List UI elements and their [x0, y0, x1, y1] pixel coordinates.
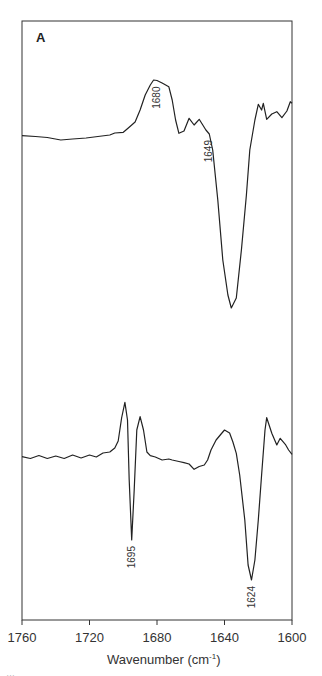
caption-fragment: … — [6, 668, 15, 676]
peak-label-1695: 1695 — [126, 546, 137, 569]
peak-label-1649: 1649 — [203, 140, 214, 163]
x-axis-label: Wavenumber (cm-1) — [107, 652, 221, 667]
x-tick-label: 1600 — [278, 630, 307, 645]
lower-spectrum-line — [22, 402, 292, 580]
plot-frame — [22, 21, 292, 620]
panel-label: A — [36, 30, 46, 45]
x-tick-label: 1720 — [75, 630, 104, 645]
peak-annotations: 1680164916951624 — [126, 86, 257, 608]
x-tick-label: 1680 — [143, 630, 172, 645]
x-axis-label-main: Wavenumber (cm — [107, 652, 209, 667]
x-axis-label-close: ) — [216, 652, 220, 667]
x-axis-tick-labels: 17601720168016401600 — [8, 630, 307, 645]
peak-label-1680: 1680 — [151, 86, 162, 109]
ir-spectrum-chart: A 17601720168016401600 Wavenumber (cm-1)… — [0, 0, 322, 676]
x-axis-ticks — [22, 620, 292, 625]
x-tick-label: 1760 — [8, 630, 37, 645]
peak-label-1624: 1624 — [246, 586, 257, 609]
upper-spectrum-line — [22, 80, 292, 308]
x-tick-label: 1640 — [210, 630, 239, 645]
